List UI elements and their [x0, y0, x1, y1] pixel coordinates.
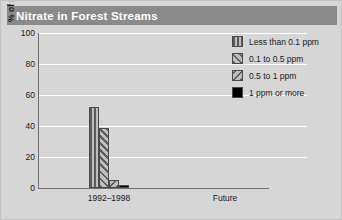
y-axis-tick-label: 40: [26, 121, 35, 131]
legend-swatch-icon: [232, 36, 243, 47]
chart-figure: Nitrate in Forest Streams % of Stream Si…: [0, 0, 342, 220]
y-axis-tick-label: 100: [21, 28, 35, 38]
page-title: Nitrate in Forest Streams: [16, 10, 158, 22]
x-axis-tick-label: Future: [213, 193, 238, 203]
y-axis-tick-label: 80: [26, 59, 35, 69]
x-axis-tick-label: 1992–1998: [88, 193, 131, 203]
x-axis-line: [39, 188, 269, 189]
legend-swatch-icon: [232, 70, 243, 81]
legend-item: 1 ppm or more: [232, 85, 340, 100]
y-axis-tick-label: 20: [26, 152, 35, 162]
legend-item: Less than 0.1 ppm: [232, 34, 340, 49]
legend-item: 0.1 to 0.5 ppm: [232, 51, 340, 66]
legend-swatch-icon: [232, 53, 243, 64]
legend-item-label: 0.5 to 1 ppm: [249, 71, 296, 81]
legend-item-label: 0.1 to 0.5 ppm: [249, 54, 303, 64]
bar: [119, 185, 129, 188]
y-axis-tick-label: 60: [26, 90, 35, 100]
bar: [109, 180, 119, 188]
y-axis-tick-label: 0: [30, 183, 35, 193]
legend-swatch-icon: [232, 87, 243, 98]
gridline: [39, 157, 307, 158]
bar: [89, 107, 99, 188]
legend-item-label: Less than 0.1 ppm: [249, 37, 319, 47]
legend-item-label: 1 ppm or more: [249, 88, 304, 98]
bar: [99, 128, 109, 188]
y-axis-title: % of Stream Sites Tested: [5, 0, 17, 49]
chart-title-bar: Nitrate in Forest Streams: [7, 6, 337, 25]
chart-legend: Less than 0.1 ppm0.1 to 0.5 ppm0.5 to 1 …: [232, 34, 340, 102]
legend-item: 0.5 to 1 ppm: [232, 68, 340, 83]
gridline: [39, 126, 307, 127]
